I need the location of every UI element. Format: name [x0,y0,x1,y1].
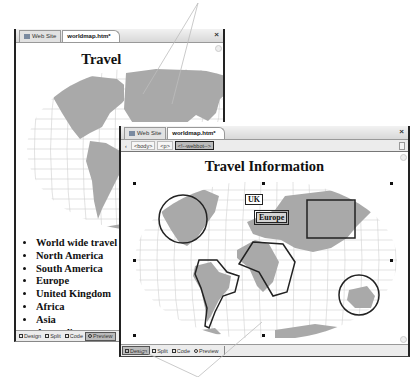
design-icon [19,334,23,338]
scroll-up-arrow[interactable] [215,45,222,52]
code-icon [65,334,69,338]
front-tab-bar: Web Site worldmap.htm* [121,126,408,140]
tag-webbot[interactable]: <!--webbot--> [175,141,214,150]
list-item[interactable]: United Kingdom [36,288,117,301]
preview-icon [88,334,92,338]
split-view-button[interactable]: Split [150,346,170,355]
view-bar-separator [224,346,225,355]
tab-worldmap[interactable]: worldmap.htm* [167,127,224,139]
list-item[interactable]: Europe [36,275,117,288]
design-icon [125,349,129,353]
split-icon [45,334,49,338]
split-icon [152,349,156,353]
resize-handle[interactable] [133,334,136,337]
resize-handle[interactable] [133,259,136,262]
list-item[interactable]: Africa [36,301,117,314]
resize-handle[interactable] [262,334,265,337]
list-item[interactable]: World wide travel [36,237,117,250]
resize-handle[interactable] [390,259,393,262]
map-label-uk[interactable]: UK [245,194,263,205]
quick-tag-selector: ‹ <body> <p> <!--webbot--> [121,140,408,152]
page-title: Travel Information [121,158,408,175]
list-item[interactable]: North America [36,250,117,263]
map-label-europe[interactable]: Europe [256,212,287,223]
tag-body[interactable]: <body> [131,141,155,150]
preview-icon [194,349,198,353]
tag-scroll-right[interactable] [399,142,405,150]
resize-handle[interactable] [390,182,393,185]
code-view-button[interactable]: Code [63,332,85,341]
close-tab-button[interactable]: × [399,127,404,136]
tag-scroll-left[interactable]: ‹ [125,143,129,149]
back-tab-bar-continued [124,29,223,43]
tab-web-site[interactable]: Web Site [124,127,166,139]
list-item[interactable]: South America [36,263,117,276]
design-view-button[interactable]: Design [122,346,150,355]
code-view-button[interactable]: Code [170,346,192,355]
travel-list: World wide travel North America South Am… [24,237,117,339]
back-window-upper-right-area: × [124,29,225,122]
list-item[interactable]: Asia [36,314,117,327]
preview-view-button[interactable]: Preview [85,332,116,341]
resize-handle[interactable] [262,182,265,185]
back-window-right-edge [14,29,124,122]
resize-handle[interactable] [133,182,136,185]
website-icon [129,131,135,136]
close-tab-button[interactable]: × [214,30,219,39]
worldmap-front-window: Web Site worldmap.htm* × ‹ <body> <p> <!… [119,126,410,357]
split-view-button[interactable]: Split [43,332,63,341]
world-map-image [135,182,397,338]
scroll-down-arrow[interactable] [400,336,407,343]
tag-p[interactable]: <p> [157,141,172,150]
world-map-image-right [124,69,225,122]
vertical-scrollbar[interactable] [399,153,407,344]
preview-view-button[interactable]: Preview [192,346,221,355]
design-view-button[interactable]: Design [17,332,43,341]
view-mode-bar: Design Split Code Preview [16,330,125,341]
code-icon [172,349,176,353]
view-mode-bar: Design Split Code Preview [121,344,408,356]
continents [155,186,375,338]
